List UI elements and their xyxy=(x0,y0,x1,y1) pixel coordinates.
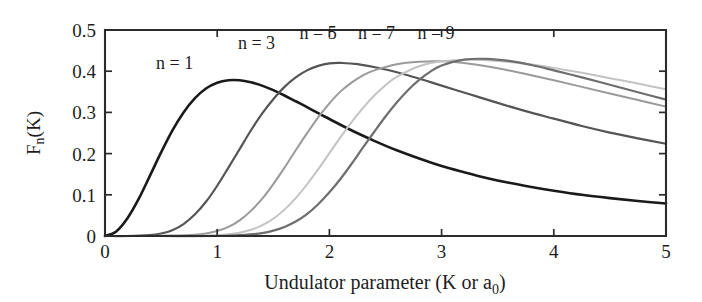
x-axis-title: Undulator parameter (K or a0) xyxy=(264,271,505,297)
series-label-n-5: n = 5 xyxy=(300,23,337,43)
undulator-harmonics-chart: 012345 00.10.20.30.40.5 n = 1n = 3n = 5n… xyxy=(0,0,702,302)
x-tick-labels-group: 012345 xyxy=(100,241,671,262)
y-tick-label: 0.3 xyxy=(72,102,96,123)
series-label-n-7: n = 7 xyxy=(358,23,395,43)
y-axis-title: Fn(K) xyxy=(23,111,47,155)
y-tick-label: 0.5 xyxy=(72,20,96,41)
curves-group xyxy=(105,59,666,236)
x-tick-label: 0 xyxy=(100,241,110,262)
chart-figure: 012345 00.10.20.30.40.5 n = 1n = 3n = 5n… xyxy=(0,0,702,302)
curve-n-1 xyxy=(105,80,666,236)
y-tick-label: 0 xyxy=(87,226,97,247)
x-tick-label: 1 xyxy=(212,241,222,262)
x-tick-label: 2 xyxy=(325,241,335,262)
x-tick-label: 3 xyxy=(437,241,447,262)
curve-n-5 xyxy=(105,61,666,236)
y-axis-title-text: Fn(K) xyxy=(23,111,47,155)
y-tick-label: 0.1 xyxy=(72,185,96,206)
series-label-n-3: n = 3 xyxy=(238,33,275,53)
x-axis-title-text: Undulator parameter (K or a0) xyxy=(264,271,505,297)
y-tick-labels-group: 00.10.20.30.40.5 xyxy=(72,20,96,247)
curve-n-3 xyxy=(105,63,666,236)
y-tick-label: 0.4 xyxy=(72,61,96,82)
series-label-n-1: n = 1 xyxy=(156,53,193,73)
x-tick-label: 4 xyxy=(549,241,559,262)
series-label-n-9: n = 9 xyxy=(417,23,454,43)
x-tick-label: 5 xyxy=(661,241,671,262)
y-tick-label: 0.2 xyxy=(72,144,96,165)
